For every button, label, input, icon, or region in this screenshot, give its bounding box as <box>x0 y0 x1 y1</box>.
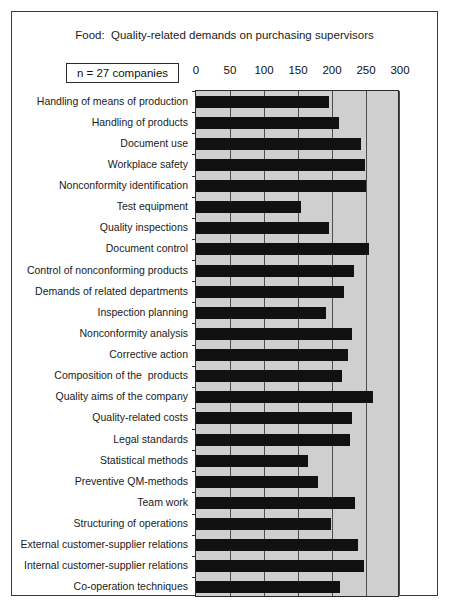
y-tick-mark <box>192 450 196 451</box>
y-tick-mark <box>192 366 196 367</box>
y-tick-mark <box>192 556 196 557</box>
gridline-250 <box>366 91 367 596</box>
bar <box>196 117 339 129</box>
category-label: Quality-related costs <box>92 411 188 423</box>
y-tick-mark <box>192 91 196 92</box>
category-label: Quality aims of the company <box>56 390 188 402</box>
bar <box>196 138 361 150</box>
category-label: Internal customer-supplier relations <box>24 559 188 571</box>
bar <box>196 412 352 424</box>
bar <box>196 560 364 572</box>
x-axis-tick-labels: 050100150200250300 <box>12 64 437 82</box>
category-label: Workplace safety <box>108 158 188 170</box>
y-tick-mark <box>192 260 196 261</box>
category-label: Demands of related departments <box>35 285 188 297</box>
bar <box>196 518 331 530</box>
bar <box>196 307 326 319</box>
bar <box>196 96 329 108</box>
y-tick-mark <box>192 112 196 113</box>
y-tick-mark <box>192 514 196 515</box>
y-tick-mark <box>192 387 196 388</box>
y-tick-mark <box>192 239 196 240</box>
x-tick-label-150: 150 <box>288 64 307 76</box>
bar <box>196 539 358 551</box>
bar <box>196 222 329 234</box>
y-tick-mark <box>192 345 196 346</box>
bar <box>196 497 355 509</box>
category-label: Document control <box>106 242 188 254</box>
bar <box>196 370 342 382</box>
bar <box>196 328 352 340</box>
category-label: Quality inspections <box>100 221 188 233</box>
x-tick-label-300: 300 <box>390 64 409 76</box>
category-label: Handling of products <box>92 116 188 128</box>
bar <box>196 180 366 192</box>
bar <box>196 265 354 277</box>
bar <box>196 455 308 467</box>
y-tick-mark <box>192 154 196 155</box>
plot-area <box>195 90 399 597</box>
y-tick-mark <box>192 577 196 578</box>
bar <box>196 286 344 298</box>
chart-figure: Food: Quality-related demands on purchas… <box>11 11 438 596</box>
y-tick-mark <box>192 492 196 493</box>
y-tick-mark <box>192 323 196 324</box>
category-label: Statistical methods <box>100 454 188 466</box>
y-tick-mark <box>192 408 196 409</box>
x-tick-label-250: 250 <box>356 64 375 76</box>
category-label: Corrective action <box>109 348 188 360</box>
y-tick-mark <box>192 535 196 536</box>
category-label: Document use <box>120 137 188 149</box>
bar <box>196 201 301 213</box>
category-label: External customer-supplier relations <box>21 538 189 550</box>
y-tick-mark <box>192 471 196 472</box>
category-label: Co-operation techniques <box>74 580 188 592</box>
bar <box>196 434 350 446</box>
y-tick-mark <box>192 197 196 198</box>
bar <box>196 391 373 403</box>
y-tick-mark <box>192 133 196 134</box>
y-tick-mark <box>192 176 196 177</box>
x-tick-label-100: 100 <box>254 64 273 76</box>
category-label: Legal standards <box>113 433 188 445</box>
x-tick-label-200: 200 <box>322 64 341 76</box>
y-tick-mark <box>192 302 196 303</box>
bar <box>196 349 348 361</box>
category-label: Handling of means of production <box>37 95 188 107</box>
x-tick-label-0: 0 <box>193 64 199 76</box>
category-label: Structuring of operations <box>74 517 188 529</box>
y-axis-category-labels: Handling of means of productionHandling … <box>12 90 192 595</box>
bar <box>196 581 340 593</box>
bar <box>196 476 318 488</box>
x-tick-label-50: 50 <box>224 64 237 76</box>
category-label: Preventive QM-methods <box>75 475 188 487</box>
category-label: Test equipment <box>117 200 188 212</box>
chart-title: Food: Quality-related demands on purchas… <box>12 29 437 41</box>
category-label: Nonconformity identification <box>59 179 188 191</box>
category-label: Control of nonconforming products <box>27 264 188 276</box>
category-label: Team work <box>137 496 188 508</box>
bar <box>196 159 365 171</box>
gridline-300 <box>399 91 400 596</box>
y-tick-mark <box>192 281 196 282</box>
category-label: Nonconformity analysis <box>79 327 188 339</box>
bar <box>196 243 369 255</box>
category-label: Composition of the products <box>54 369 188 381</box>
y-tick-mark <box>192 218 196 219</box>
category-label: Inspection planning <box>98 306 189 318</box>
y-tick-mark <box>192 429 196 430</box>
